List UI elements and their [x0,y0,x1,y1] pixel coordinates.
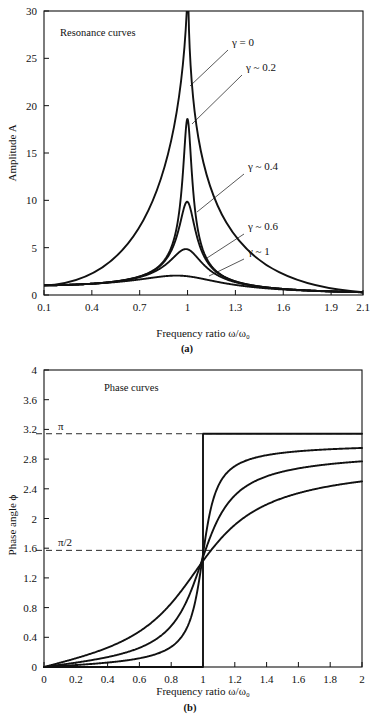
y-tick-label-2: 10 [26,194,38,206]
curve-series-1 [44,119,363,292]
x-tick-label-3: 1 [185,301,191,313]
x-tick-label-7: 2.1 [356,301,370,313]
y-tick-label-10: 4 [32,364,38,376]
y-tick-label-8: 3.2 [23,423,37,435]
phase-y-tick-labels: 00.40.81.21.622.42.83.23.64 [23,364,37,673]
phase-x-tick-labels: 00.20.40.60.811.21.41.61.82 [41,673,365,685]
y-tick-label-7: 2.8 [23,453,37,465]
annotation-leader-3 [207,234,244,258]
x-tick-label-10: 2 [359,673,365,685]
resonance-panel-title: Resonance curves [60,27,136,38]
resonance-curve-group [44,11,363,292]
phase-panel-title: Phase curves [104,382,159,393]
annotation-label-4: γ ~ 1 [247,245,270,257]
y-tick-label-2: 0.8 [23,602,37,614]
x-tick-label-6: 1.2 [228,673,242,685]
resonance-curves [44,11,363,292]
y-tick-label-6: 30 [26,5,38,17]
panel-a-caption: (a) [181,343,194,355]
x-tick-label-8: 1.6 [292,673,306,685]
reference-label-0: π [58,420,64,432]
annotation-label-2: γ ~ 0.4 [247,160,279,172]
y-tick-label-4: 20 [26,100,38,112]
y-tick-label-5: 25 [26,52,38,64]
y-tick-label-0: 0 [32,661,38,673]
phase-x-axis-title: Frequency ratio ω/ω₀ [156,685,250,697]
y-tick-label-3: 15 [26,147,38,159]
resonance-y-tick-labels: 051015202530 [26,5,38,301]
y-tick-label-5: 2 [32,513,38,525]
annotation-leader-4 [209,259,244,276]
x-tick-label-4: 1.3 [229,301,243,313]
x-tick-label-0: 0 [41,673,47,685]
x-tick-label-5: 1.6 [276,301,290,313]
phase-reference-lines: ππ/2 [36,420,362,551]
phase-chart-svg: 00.20.40.60.811.21.41.61.82 00.40.81.21.… [0,355,375,715]
resonance-chart-svg: 0.10.40.711.31.61.92.1 051015202530 γ = … [0,0,375,355]
resonance-chart-panel: 0.10.40.711.31.61.92.1 051015202530 γ = … [0,0,375,355]
annotation-label-0: γ = 0 [231,36,255,48]
annotation-leader-1 [192,75,242,124]
x-tick-label-9: 1.8 [323,673,337,685]
y-tick-label-0: 0 [32,289,38,301]
y-tick-label-1: 5 [32,242,38,254]
x-tick-label-0: 0.1 [37,301,51,313]
resonance-y-axis-title: Amplitude A [6,124,18,181]
y-tick-label-4: 1.6 [23,542,37,554]
x-tick-label-6: 1.9 [324,301,338,313]
x-tick-label-7: 1.4 [260,673,274,685]
y-tick-label-3: 1.2 [23,572,37,584]
x-tick-label-3: 0.6 [133,673,147,685]
x-tick-label-2: 0.4 [101,673,115,685]
annotation-leader-0 [190,50,228,86]
curve-series-4 [44,276,363,293]
resonance-annotations: γ = 0γ ~ 0.2γ ~ 0.4γ ~ 0.6γ ~ 1 [190,36,279,276]
annotation-label-3: γ ~ 0.6 [247,220,279,232]
resonance-x-axis-title: Frequency ratio ω/ω₀ [156,327,250,339]
resonance-x-tick-labels: 0.10.40.711.31.61.92.1 [37,301,370,313]
y-tick-label-1: 0.4 [23,631,37,643]
phase-chart-panel: 00.20.40.60.811.21.41.61.82 00.40.81.21.… [0,355,375,715]
y-tick-label-6: 2.4 [23,483,37,495]
x-tick-label-2: 0.7 [133,301,147,313]
annotation-leader-2 [197,174,244,212]
x-tick-label-5: 1 [200,673,206,685]
reference-label-1: π/2 [58,536,72,548]
y-tick-label-9: 3.6 [23,394,37,406]
annotation-label-1: γ ~ 0.2 [245,61,276,73]
x-tick-label-1: 0.2 [69,673,83,685]
x-tick-label-1: 0.4 [85,301,99,313]
phase-y-axis-title: Phase angle ϕ [6,494,18,555]
panel-b-caption: (b) [184,702,197,714]
x-tick-label-4: 0.8 [164,673,178,685]
